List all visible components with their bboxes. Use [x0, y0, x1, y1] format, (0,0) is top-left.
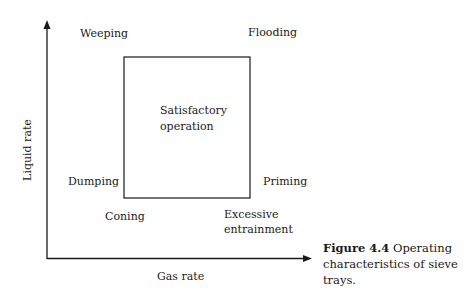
label-weeping: Weeping	[80, 27, 128, 41]
x-axis-arrowhead	[303, 255, 312, 262]
label-satisfactory: Satisfactory	[160, 104, 227, 118]
label-excessive: Excessive	[224, 208, 278, 222]
label-flooding: Flooding	[248, 26, 297, 40]
y-axis-label: Liquid rate	[21, 119, 34, 181]
label-operation: operation	[160, 120, 214, 134]
label-entrainment: entrainment	[224, 223, 293, 237]
label-dumping: Dumping	[68, 175, 119, 189]
label-priming: Priming	[263, 175, 307, 189]
x-axis-label: Gas rate	[157, 270, 204, 284]
y-axis-arrowhead	[44, 20, 51, 29]
label-coning: Coning	[105, 210, 145, 224]
figure-caption: Figure 4.4 Operating characteristics of …	[323, 240, 463, 288]
caption-number: Figure 4.4	[323, 241, 389, 255]
